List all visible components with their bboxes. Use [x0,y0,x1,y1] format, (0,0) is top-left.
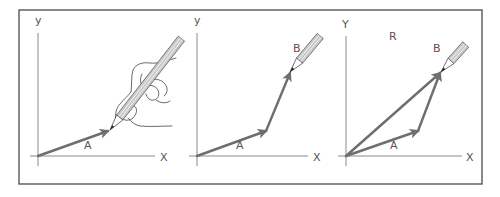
panel-resultant-r: XYABR [338,18,474,166]
x-axis-label: X [313,151,321,164]
vector-b [266,73,290,131]
vector-addition-diagram: XyA XyAB XYABR [0,0,500,197]
x-axis-label: X [160,151,168,164]
pencil-stripe [121,39,183,118]
vector-a [38,131,108,156]
pencil-panel-3 [438,42,469,75]
pencil-body [448,42,469,64]
vector-a [346,131,418,156]
panel-draw-b: XyAB [189,14,321,166]
pencil-body [117,36,185,120]
vector-label-a: A [390,139,398,152]
vector-label-a: A [236,139,244,152]
vector-label-b: B [433,42,441,55]
vector-a [197,131,266,156]
pencil-panel-1 [107,36,185,132]
pencil-body [297,33,324,63]
vector-label-a: A [84,139,92,152]
pencil-stripe [119,38,181,117]
vector-label-b: B [293,42,301,55]
y-axis-label: y [35,14,42,27]
x-axis-label: X [466,151,474,164]
vector-label-r: R [389,30,397,43]
y-axis-label: y [194,14,201,27]
panel-draw-a: XyA [30,14,168,166]
y-axis-label: Y [341,18,349,31]
